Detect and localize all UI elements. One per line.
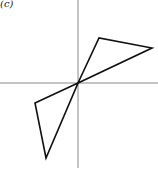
lower-left-triangle bbox=[35, 83, 78, 158]
figure-canvas bbox=[0, 0, 158, 171]
upper-right-triangle bbox=[78, 38, 152, 83]
triangle-figure: (c) bbox=[0, 0, 158, 171]
